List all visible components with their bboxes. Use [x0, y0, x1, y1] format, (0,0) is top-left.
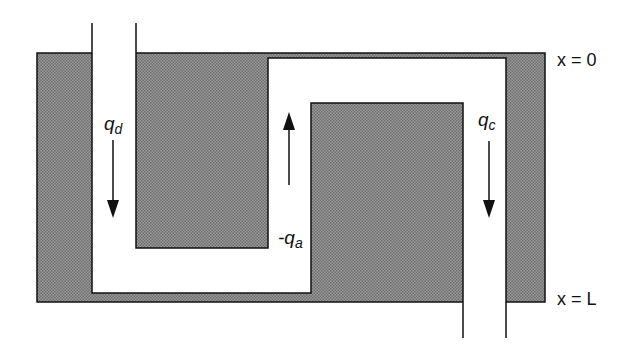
- label-x-l: x = L: [557, 289, 597, 309]
- label-x-0: x = 0: [557, 50, 597, 70]
- flow-diagram: qd -qa qc x = 0 x = L: [0, 0, 631, 354]
